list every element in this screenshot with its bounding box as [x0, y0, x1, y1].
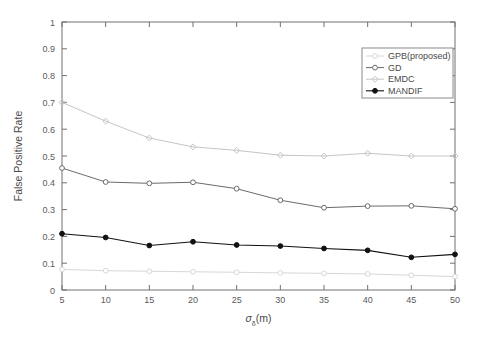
x-tick-label: 50 — [450, 295, 460, 305]
data-point — [278, 244, 283, 249]
y-tick-label: 0.1 — [42, 259, 55, 269]
legend-label: GD — [388, 63, 402, 73]
data-point — [103, 235, 108, 240]
legend: GPB(proposed)GDEMDCMANDIF — [362, 48, 453, 98]
data-point — [278, 198, 283, 203]
data-point — [453, 252, 458, 257]
data-point — [409, 203, 414, 208]
data-point — [234, 243, 239, 248]
x-tick-label: 30 — [275, 295, 285, 305]
data-point — [147, 243, 152, 248]
data-point — [147, 269, 152, 274]
series-mandif — [60, 231, 458, 259]
series-line — [62, 168, 455, 209]
data-point — [322, 246, 327, 251]
legend-label: EMDC — [388, 74, 415, 84]
data-point — [60, 231, 65, 236]
x-tick-label: 15 — [144, 295, 154, 305]
y-tick-label: 0 — [50, 286, 55, 296]
data-point — [365, 272, 370, 277]
data-point — [60, 166, 65, 171]
data-point — [409, 255, 414, 260]
series-line — [62, 269, 455, 276]
series-gd — [60, 166, 458, 212]
legend-sample-marker — [373, 88, 378, 93]
x-tick-label: 35 — [319, 295, 329, 305]
data-point — [103, 268, 108, 273]
y-tick-label: 0.4 — [42, 178, 55, 188]
figure-container: 00.10.20.30.40.50.60.70.80.9151015202530… — [0, 0, 490, 340]
x-tick-label: 40 — [363, 295, 373, 305]
y-tick-label: 0.5 — [42, 152, 55, 162]
data-point — [191, 239, 196, 244]
series-emdc — [59, 99, 458, 159]
data-point — [147, 181, 152, 186]
data-point — [322, 271, 327, 276]
y-tick-label: 1 — [50, 18, 55, 28]
data-point — [234, 270, 239, 275]
data-point — [322, 205, 327, 210]
legend-label: MANDIF — [388, 86, 423, 96]
y-tick-label: 0.8 — [42, 71, 55, 81]
x-tick-label: 10 — [101, 295, 111, 305]
series-line — [62, 234, 455, 258]
y-axis-label: False Positive Rate — [12, 111, 24, 202]
y-tick-label: 0.7 — [42, 98, 55, 108]
y-tick-label: 0.3 — [42, 205, 55, 215]
legend-label: GPB(proposed) — [388, 51, 451, 61]
series-gpb-proposed- — [60, 267, 458, 279]
data-point — [60, 267, 65, 272]
chart-svg: 00.10.20.30.40.50.60.70.80.9151015202530… — [0, 0, 490, 340]
data-point — [278, 270, 283, 275]
legend-sample-marker — [373, 65, 378, 70]
data-point — [453, 274, 458, 279]
x-tick-label: 20 — [188, 295, 198, 305]
data-point — [191, 269, 196, 274]
data-point — [103, 180, 108, 185]
data-point — [365, 248, 370, 253]
y-tick-label: 0.2 — [42, 232, 55, 242]
data-point — [191, 180, 196, 185]
y-tick-label: 0.6 — [42, 125, 55, 135]
x-tick-label: 45 — [406, 295, 416, 305]
data-point — [365, 204, 370, 209]
data-point — [453, 206, 458, 211]
x-tick-label: 5 — [59, 295, 64, 305]
series-line — [62, 102, 455, 156]
data-point — [234, 186, 239, 191]
y-tick-label: 0.9 — [42, 44, 55, 54]
x-tick-label: 25 — [232, 295, 242, 305]
x-axis-label: σδ(m) — [246, 312, 272, 327]
data-point — [409, 273, 414, 278]
legend-sample-marker — [373, 54, 378, 59]
